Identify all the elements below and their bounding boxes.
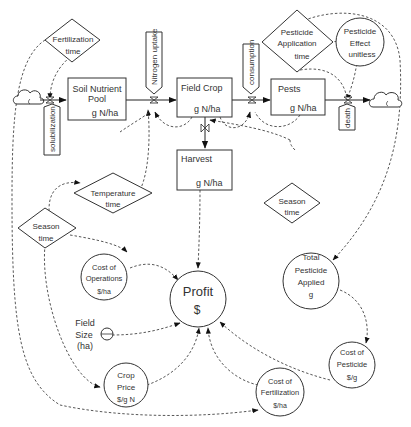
svg-text:Pesticide: Pesticide <box>295 266 328 275</box>
svg-text:$: $ <box>194 303 201 317</box>
svg-text:Season: Season <box>32 222 59 231</box>
svg-text:Temperature: Temperature <box>91 189 136 198</box>
svg-text:Pesticide: Pesticide <box>281 28 314 37</box>
temperature-time-input[interactable]: Temperature time <box>74 173 152 213</box>
svg-text:unitless: unitless <box>348 50 375 59</box>
death-flow-label[interactable]: death <box>339 104 355 130</box>
svg-text:Pool: Pool <box>88 94 106 104</box>
svg-text:(ha): (ha) <box>77 341 93 351</box>
svg-text:time: time <box>284 208 300 217</box>
svg-text:Application: Application <box>277 39 316 48</box>
svg-text:Cost of: Cost of <box>268 377 293 386</box>
sink-cloud-icon <box>369 92 401 107</box>
consumption-flow-label[interactable]: consumption <box>243 40 259 94</box>
svg-text:$/ha: $/ha <box>97 288 111 295</box>
nitrogen-uptake-flow-label[interactable]: Nitrogen uptake <box>146 28 162 94</box>
svg-text:$/g N: $/g N <box>117 395 135 404</box>
stock-pests[interactable]: Pests g N/ha <box>271 79 325 115</box>
svg-text:g N/ha: g N/ha <box>290 103 317 113</box>
svg-text:time: time <box>65 47 81 56</box>
field-size-converter[interactable]: Field Size (ha) <box>75 318 113 351</box>
svg-text:Fertilization: Fertilization <box>261 388 299 397</box>
svg-text:g: g <box>309 290 313 299</box>
pesticide-application-time-input[interactable]: Pesticide Application time <box>262 10 333 72</box>
svg-text:Pests: Pests <box>278 84 301 94</box>
svg-text:Soil Nutrient: Soil Nutrient <box>72 84 122 94</box>
crop-price-converter[interactable]: Crop Price $/g N <box>104 363 148 407</box>
svg-text:Pesticide: Pesticide <box>344 27 377 36</box>
svg-text:Field: Field <box>75 318 95 328</box>
stock-harvest[interactable]: Harvest g N/ha <box>177 150 232 190</box>
svg-text:Pesticide: Pesticide <box>337 360 367 369</box>
svg-text:Season: Season <box>278 197 305 206</box>
svg-text:Cost of: Cost of <box>92 263 117 272</box>
stock-field-crop[interactable]: Field Crop g N/ha <box>177 78 232 117</box>
svg-text:Harvest: Harvest <box>181 154 213 164</box>
svg-text:solubilization: solubilization <box>48 106 57 152</box>
stock-soil-nutrient-pool[interactable]: Soil Nutrient Pool g N/ha <box>68 78 126 120</box>
svg-text:Applied: Applied <box>298 278 325 287</box>
cost-of-pesticide-converter[interactable]: Cost of Pesticide $/g <box>329 342 375 388</box>
cost-of-fertilization-converter[interactable]: Cost of Fertilization $/ha <box>256 368 304 416</box>
season-time-input-right[interactable]: Season time <box>264 183 320 223</box>
svg-text:Fertilization: Fertilization <box>53 35 94 44</box>
svg-text:time: time <box>38 234 54 243</box>
svg-text:Profit: Profit <box>183 284 214 299</box>
stock-flow-diagram: solubilization Nitrogen uptake consumpti… <box>0 0 411 427</box>
svg-text:g N/ha: g N/ha <box>194 104 221 114</box>
fertilization-time-input[interactable]: Fertilization time <box>45 19 100 62</box>
svg-text:Field Crop: Field Crop <box>181 83 223 93</box>
svg-text:Total: Total <box>303 253 320 262</box>
svg-text:time: time <box>294 52 310 61</box>
svg-text:time: time <box>105 200 121 209</box>
profit-converter[interactable]: Profit $ <box>170 271 226 327</box>
svg-text:consumption: consumption <box>247 40 256 85</box>
svg-text:$/ha: $/ha <box>273 402 287 409</box>
svg-text:$/g: $/g <box>347 373 357 382</box>
svg-text:death: death <box>343 108 352 128</box>
svg-text:Size: Size <box>75 330 93 340</box>
pesticide-effect-converter[interactable]: Pesticide Effect unitless <box>336 18 384 66</box>
svg-text:Price: Price <box>117 383 136 392</box>
season-time-input-left[interactable]: Season time <box>18 208 76 248</box>
svg-text:Nitrogen uptake: Nitrogen uptake <box>150 28 159 85</box>
svg-text:Cost of: Cost of <box>340 348 365 357</box>
svg-text:Operations: Operations <box>86 274 123 283</box>
cost-of-operations-converter[interactable]: Cost of Operations $/ha <box>81 254 127 300</box>
svg-text:Effect: Effect <box>350 39 371 48</box>
solubilization-flow-label[interactable]: solubilization <box>44 104 60 155</box>
svg-text:Crop: Crop <box>117 371 135 380</box>
svg-text:g N/ha: g N/ha <box>196 178 223 188</box>
total-pesticide-applied-converter[interactable]: Total Pesticide Applied g <box>283 253 339 309</box>
svg-text:g N/ha: g N/ha <box>92 108 119 118</box>
